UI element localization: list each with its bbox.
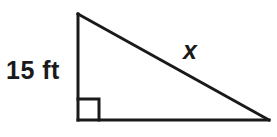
- hypotenuse-label: x: [183, 38, 197, 63]
- vertical-leg-label: 15 ft: [6, 58, 60, 83]
- right-angle-marker-icon: [78, 99, 99, 120]
- hypotenuse-line: [78, 14, 269, 120]
- right-triangle-figure: 15 ft x: [0, 0, 277, 137]
